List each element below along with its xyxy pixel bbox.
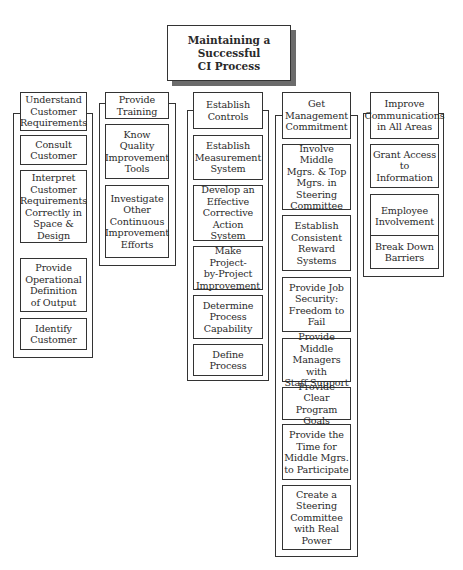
item-investigate-other-ci-efforts: Investigate Other Continuous Improvement… <box>105 185 169 258</box>
item-establish-measurement-system: Establish Measurement System <box>193 135 263 180</box>
item-involve-middle-top-mgrs: Involve Middle Mgrs. & Top Mgrs. in Stee… <box>282 144 351 210</box>
item-know-quality-improvement-tools: Know Quality Improvement Tools <box>105 124 169 179</box>
item-determine-process-capability: Determine Process Capability <box>193 295 263 339</box>
item-make-project-by-project-improvement: Make Project- by-Project Improvement <box>193 246 263 290</box>
item-break-down-barriers: Break Down Barriers <box>370 235 439 269</box>
column-header-establish-controls: Establish Controls <box>193 92 263 129</box>
item-interpret-customer-requirements: Interpret Customer Requirements Correctl… <box>20 170 87 243</box>
item-develop-corrective-action-system: Develop an Effective Corrective Action S… <box>193 185 263 241</box>
item-create-steering-committee: Create a Steering Committee with Real Po… <box>282 485 351 550</box>
item-establish-consistent-reward-systems: Establish Consistent Reward Systems <box>282 215 351 271</box>
item-provide-middle-managers-staff-support: Provide Middle Managers with Staff Suppo… <box>282 338 351 382</box>
item-define-process: Define Process <box>193 344 263 376</box>
title-box: Maintaining a Successful CI Process <box>167 25 291 81</box>
item-identify-customer: Identify Customer <box>20 318 87 350</box>
column-header-provide-training: Provide Training <box>105 92 169 119</box>
item-consult-customer: Consult Customer <box>20 135 87 165</box>
column-header-improve-communications: Improve Communications in All Areas <box>370 92 439 139</box>
item-provide-operational-definition: Provide Operational Definition of Output <box>20 258 87 312</box>
item-employee-involvement: Employee Involvement <box>370 194 439 238</box>
item-grant-access-to-information: Grant Access to Information <box>370 144 439 188</box>
item-provide-clear-program-goals: Provide Clear Program Goals <box>282 387 351 420</box>
item-provide-job-security: Provide Job Security: Freedom to Fail <box>282 277 351 332</box>
column-header-get-management-commitment: Get Management Commitment <box>282 92 351 139</box>
column-header-understand-customer-requirements: Understand Customer Requirements <box>20 92 87 131</box>
item-provide-time-middle-mgrs: Provide the Time for Middle Mgrs. to Par… <box>282 424 351 480</box>
